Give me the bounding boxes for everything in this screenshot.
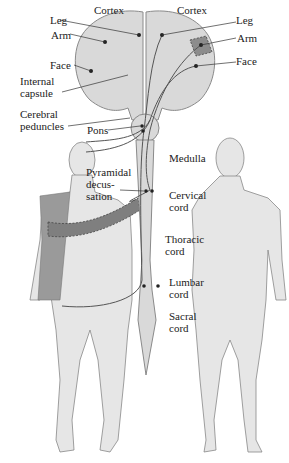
label-sacral-1: Sacral — [169, 310, 196, 322]
label-pyramidal-1: Pyramidal — [86, 166, 131, 178]
label-medulla: Medulla — [169, 152, 206, 164]
label-thoracic-2: cord — [165, 245, 185, 257]
label-leg-right: Leg — [236, 14, 253, 26]
label-pyramidal-2: decus- — [86, 178, 115, 190]
label-pyramidal-3: sation — [86, 190, 112, 202]
label-pons: Pons — [87, 124, 108, 136]
label-face-right: Face — [236, 55, 257, 67]
label-cortex-right: Cortex — [177, 4, 207, 16]
right-body-figure — [192, 138, 286, 452]
label-arm-left: Arm — [51, 29, 71, 41]
label-arm-right: Arm — [237, 32, 257, 44]
label-thoracic-1: Thoracic — [165, 233, 204, 245]
label-internal-capsule-2: capsule — [20, 87, 53, 99]
label-lumbar-1: Lumbar — [169, 276, 204, 288]
label-cervical-1: Cervical — [169, 189, 206, 201]
label-face-left: Face — [50, 59, 71, 71]
label-internal-capsule-1: Internal — [20, 75, 54, 87]
corticospinal-diagram — [0, 0, 289, 463]
label-cortex-left: Cortex — [94, 4, 124, 16]
label-sacral-2: cord — [169, 322, 189, 334]
label-cerebral-peduncles-1: Cerebral — [20, 108, 58, 120]
label-cerebral-peduncles-2: peduncles — [20, 120, 64, 132]
label-lumbar-2: cord — [169, 288, 189, 300]
label-leg-left: Leg — [50, 14, 67, 26]
label-cervical-2: cord — [169, 201, 189, 213]
